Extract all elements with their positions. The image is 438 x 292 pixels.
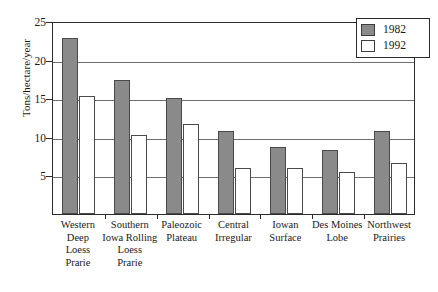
y-tick-label-10: 10 <box>18 132 46 144</box>
legend-label-1982: 1982 <box>383 24 406 36</box>
bar-1992-6 <box>391 163 407 214</box>
legend-item-1982: 1982 <box>361 22 425 38</box>
gridline-20 <box>53 62 414 63</box>
y-tick-label-20: 20 <box>18 55 46 67</box>
legend: 19821992 <box>356 18 430 58</box>
y-tick-label-5: 5 <box>18 170 46 182</box>
y-tick-label-15: 15 <box>18 93 46 105</box>
bar-1992-2 <box>183 124 199 214</box>
soil-erosion-bar-chart: Tons/hectare/year 510152025 19821992 Wes… <box>0 0 438 292</box>
bar-1982-0 <box>62 38 78 214</box>
bar-1992-5 <box>339 172 355 214</box>
legend-swatch-1992 <box>361 40 375 52</box>
x-label-line: Prairies <box>357 232 421 245</box>
gridline-15 <box>53 100 414 101</box>
bar-1992-0 <box>79 96 95 214</box>
y-axis-title: Tons/hectare/year <box>20 8 32 148</box>
bar-1982-4 <box>270 147 286 214</box>
bar-1982-2 <box>166 98 182 214</box>
bar-1992-4 <box>287 168 303 214</box>
legend-label-1992: 1992 <box>383 40 406 52</box>
bar-1982-6 <box>374 131 390 214</box>
legend-swatch-1982 <box>361 24 375 36</box>
bar-1992-1 <box>131 135 147 214</box>
x-label-line: Prarie <box>98 257 162 270</box>
x-label-line: Northwest <box>357 219 421 232</box>
legend-item-1992: 1992 <box>361 38 425 54</box>
x-label-line: Loess <box>98 244 162 257</box>
bar-1982-5 <box>322 150 338 214</box>
y-tick-label-25: 25 <box>18 16 46 28</box>
bar-1992-3 <box>235 168 251 214</box>
x-axis-category-labels: WesternDeepLoessPrarieSouthernIowa Rolli… <box>52 219 415 289</box>
bar-1982-3 <box>218 131 234 214</box>
bar-1982-1 <box>114 80 130 214</box>
x-label-6: NorthwestPrairies <box>357 219 421 244</box>
